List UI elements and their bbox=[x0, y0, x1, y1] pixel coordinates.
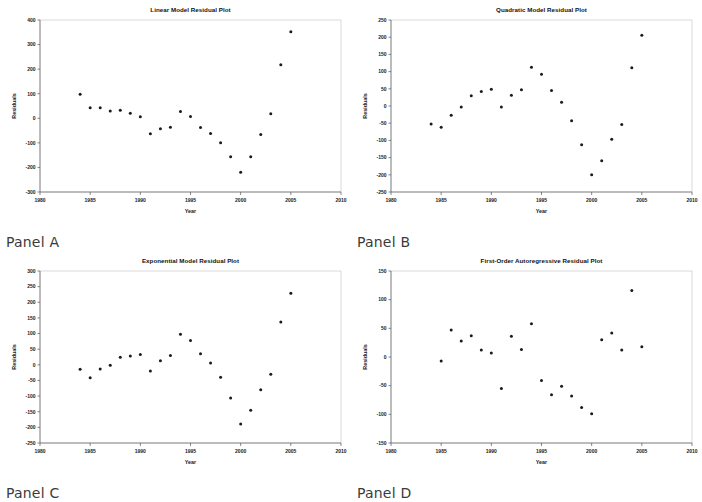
data-point bbox=[79, 368, 82, 371]
x-tick-label: 2010 bbox=[686, 448, 697, 454]
data-point bbox=[490, 351, 493, 354]
data-point bbox=[129, 112, 132, 115]
y-tick-label: 100 bbox=[27, 91, 36, 97]
data-point bbox=[279, 63, 282, 66]
data-point bbox=[550, 89, 553, 92]
y-tick-label: 300 bbox=[27, 268, 36, 274]
data-point bbox=[199, 352, 202, 355]
x-tick-label: 1990 bbox=[135, 197, 146, 203]
y-tick-label: 250 bbox=[27, 283, 36, 289]
data-point bbox=[229, 155, 232, 158]
data-point bbox=[600, 159, 603, 162]
residual-scatter-plot: Quadratic Model Residual Plot-250-200-15… bbox=[351, 0, 702, 224]
x-tick-label: 1985 bbox=[436, 197, 447, 203]
data-point bbox=[209, 361, 212, 364]
data-point bbox=[139, 115, 142, 118]
data-point bbox=[269, 112, 272, 115]
panel-caption: Panel B bbox=[357, 235, 410, 249]
chart-title: Linear Model Residual Plot bbox=[150, 6, 230, 13]
y-axis-title: Residuals bbox=[362, 344, 368, 369]
data-point bbox=[199, 126, 202, 129]
data-point bbox=[129, 355, 132, 358]
y-tick-label: 150 bbox=[27, 315, 36, 321]
panel-caption: Panel D bbox=[357, 486, 411, 500]
plot-frame bbox=[40, 271, 341, 443]
data-point bbox=[450, 114, 453, 117]
y-tick-label: -250 bbox=[25, 440, 35, 446]
y-tick-label: -150 bbox=[376, 154, 386, 160]
data-point-series bbox=[440, 289, 644, 415]
y-axis: -150-100-50050100150 bbox=[376, 268, 391, 446]
y-tick-label: 200 bbox=[378, 34, 387, 40]
data-point bbox=[620, 123, 623, 126]
y-tick-label: -300 bbox=[25, 189, 35, 195]
data-point bbox=[249, 409, 252, 412]
x-tick-label: 1985 bbox=[436, 448, 447, 454]
y-tick-label: -100 bbox=[25, 393, 35, 399]
data-point bbox=[89, 106, 92, 109]
data-point bbox=[289, 292, 292, 295]
x-tick-label: 2010 bbox=[686, 197, 697, 203]
data-point bbox=[99, 367, 102, 370]
data-point bbox=[189, 115, 192, 118]
data-point bbox=[510, 94, 513, 97]
data-point bbox=[189, 339, 192, 342]
data-point bbox=[500, 106, 503, 109]
data-point bbox=[620, 349, 623, 352]
residual-scatter-plot: Exponential Model Residual Plot-250-200-… bbox=[0, 251, 351, 475]
residual-scatter-plot: First-Order Autoregressive Residual Plot… bbox=[351, 251, 702, 475]
y-tick-label: -100 bbox=[25, 140, 35, 146]
x-tick-label: 2005 bbox=[636, 197, 647, 203]
y-tick-label: 100 bbox=[27, 330, 36, 336]
data-point bbox=[149, 132, 152, 135]
y-axis: -300-200-1000100200300400 bbox=[25, 17, 40, 195]
data-point bbox=[239, 171, 242, 174]
data-point bbox=[610, 331, 613, 334]
x-tick-label: 2010 bbox=[335, 197, 346, 203]
y-tick-label: 400 bbox=[27, 17, 36, 23]
data-point bbox=[99, 106, 102, 109]
x-tick-label: 2000 bbox=[586, 197, 597, 203]
y-tick-label: -150 bbox=[376, 440, 386, 446]
y-tick-label: 200 bbox=[27, 66, 36, 72]
data-point bbox=[139, 353, 142, 356]
x-tick-label: 1990 bbox=[486, 197, 497, 203]
y-tick-label: 300 bbox=[27, 41, 36, 47]
y-tick-label: -200 bbox=[376, 172, 386, 178]
data-point bbox=[630, 66, 633, 69]
data-point bbox=[440, 360, 443, 363]
y-tick-label: -200 bbox=[25, 164, 35, 170]
y-axis-title: Residuals bbox=[11, 344, 17, 369]
y-tick-label: 100 bbox=[378, 296, 387, 302]
x-tick-label: 1985 bbox=[85, 448, 96, 454]
data-point bbox=[570, 119, 573, 122]
data-point bbox=[520, 88, 523, 91]
data-point bbox=[460, 339, 463, 342]
x-axis: 1980198519901995200020052010 bbox=[34, 192, 346, 203]
data-point bbox=[119, 356, 122, 359]
data-point bbox=[440, 126, 443, 129]
data-point-series bbox=[430, 34, 644, 177]
x-axis-title: Year bbox=[185, 208, 197, 214]
plot-frame bbox=[391, 271, 692, 443]
x-axis: 1980198519901995200020052010 bbox=[34, 443, 346, 454]
data-point bbox=[229, 396, 232, 399]
y-tick-label: 100 bbox=[378, 68, 387, 74]
y-axis-title: Residuals bbox=[362, 93, 368, 118]
data-point bbox=[480, 349, 483, 352]
data-point bbox=[520, 348, 523, 351]
y-tick-label: 50 bbox=[381, 86, 387, 92]
data-point bbox=[279, 320, 282, 323]
panel-d: First-Order Autoregressive Residual Plot… bbox=[351, 251, 702, 502]
x-tick-label: 1990 bbox=[135, 448, 146, 454]
x-axis-title: Year bbox=[536, 208, 548, 214]
x-tick-label: 2005 bbox=[285, 448, 296, 454]
x-tick-label: 2000 bbox=[586, 448, 597, 454]
data-point bbox=[470, 334, 473, 337]
y-tick-label: 50 bbox=[30, 346, 36, 352]
data-point bbox=[119, 109, 122, 112]
panel-c: Exponential Model Residual Plot-250-200-… bbox=[0, 251, 351, 502]
data-point bbox=[289, 30, 292, 33]
panel-a: Linear Model Residual Plot-300-200-10001… bbox=[0, 0, 351, 251]
data-point bbox=[590, 412, 593, 415]
